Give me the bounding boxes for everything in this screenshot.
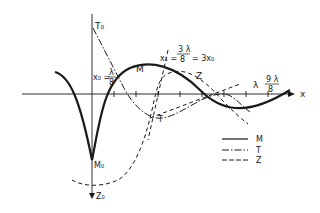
legend-item-T: T (222, 146, 261, 155)
legend-item-Z: Z (222, 156, 262, 165)
label-lambda: λ (253, 80, 259, 90)
svg-text:M: M (256, 135, 263, 144)
legend-item-M: M (222, 135, 263, 144)
svg-text:= 3x₀: = 3x₀ (192, 54, 214, 63)
x-axis-arrow-icon (288, 91, 295, 97)
label-curve-T: T (157, 115, 163, 124)
label-9lambda-over-8: 9 λ 8 (265, 75, 279, 94)
svg-text:8: 8 (180, 55, 185, 64)
curve-M (55, 64, 290, 160)
label-curve-M: M (136, 64, 144, 74)
curve-Z-lower (150, 84, 240, 118)
svg-text:x₀ =: x₀ = (93, 73, 110, 82)
y-axis-arrow-icon (89, 193, 95, 199)
label-x-axis: x (300, 89, 306, 99)
svg-text:3 λ: 3 λ (178, 45, 191, 54)
svg-text:8: 8 (109, 78, 114, 87)
label-M0: M₀ (94, 161, 104, 170)
svg-text:x₁ =: x₁ = (160, 54, 177, 63)
label-curve-Z: Z (196, 71, 202, 81)
svg-text:Z: Z (256, 156, 262, 165)
diagram-canvas: T₀ M₀ Z₀ x x₀ = λ 8 M T Z x₁ = 3 λ 8 = 3… (0, 0, 320, 213)
legend: M T Z (222, 135, 263, 165)
svg-text:8: 8 (268, 85, 273, 94)
svg-text:λ: λ (109, 68, 114, 77)
label-Z0: Z₀ (96, 192, 105, 201)
label-x1: x₁ = 3 λ 8 = 3x₀ (160, 45, 214, 64)
label-x0: x₀ = λ 8 (93, 68, 116, 87)
svg-text:T: T (255, 146, 261, 155)
svg-text:9 λ: 9 λ (266, 75, 279, 84)
label-T0: T₀ (94, 21, 104, 31)
